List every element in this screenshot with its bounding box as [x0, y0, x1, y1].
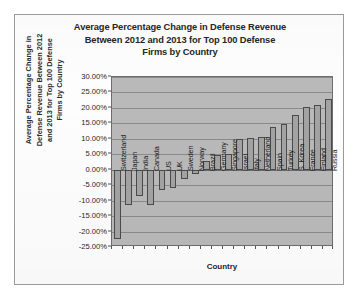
x-tick-mark	[144, 246, 145, 249]
x-tick-mark	[178, 246, 179, 249]
y-axis-title-line-2: Defense Revenue Between 2012	[35, 34, 45, 147]
x-category-label: Israel	[241, 154, 250, 171]
bar	[136, 170, 143, 196]
y-tick-label: 25.00%	[81, 87, 107, 96]
x-category-label: Canada	[152, 146, 161, 171]
bar	[181, 170, 188, 179]
y-tick-label: 15.00%	[81, 118, 107, 127]
x-category-label: India	[141, 156, 150, 171]
y-tick-label: 20.00%	[81, 102, 107, 111]
x-category-label: Brazil	[208, 153, 217, 170]
chart-title-line-3: Firms by Country	[33, 46, 327, 59]
y-tick-mark	[108, 215, 111, 216]
bar	[125, 170, 132, 206]
y-tick-label: -20.00%	[79, 226, 107, 235]
gridline-10	[112, 139, 332, 140]
x-tick-mark	[111, 246, 112, 249]
y-tick-label: 30.00%	[81, 72, 107, 81]
y-axis-title-line-3: and 2013 for Top 100 Defense	[45, 34, 55, 147]
bar	[159, 170, 166, 190]
plot-wrap: 30.00%25.00%20.00%15.00%10.00%5.00%0.00%…	[111, 76, 333, 246]
bar	[114, 170, 121, 240]
x-tick-mark	[200, 246, 201, 249]
y-tick-mark	[108, 76, 111, 77]
x-category-label: Spain	[275, 153, 284, 171]
chart-title-line-1: Average Percentage Change in Defense Rev…	[33, 21, 327, 34]
x-category-label: Japan	[130, 152, 139, 171]
x-tick-mark	[133, 246, 134, 249]
x-tick-mark	[233, 246, 234, 249]
bar	[147, 170, 154, 206]
x-tick-mark	[155, 246, 156, 249]
x-tick-mark	[322, 246, 323, 249]
chart-frame: Average Percentage Change in Defense Rev…	[14, 14, 344, 285]
gridline-30	[112, 77, 332, 78]
bar	[170, 170, 177, 189]
x-tick-mark	[122, 246, 123, 249]
x-category-label: Finland	[319, 148, 328, 171]
x-tick-mark	[300, 246, 301, 249]
x-tick-mark	[266, 246, 267, 249]
y-tick-mark	[108, 106, 111, 107]
x-tick-mark	[289, 246, 290, 249]
y-tick-label: 0.00%	[85, 164, 107, 173]
y-tick-mark	[108, 230, 111, 231]
x-tick-mark	[332, 246, 333, 249]
x-tick-mark	[189, 246, 190, 249]
y-tick-label: -15.00%	[79, 211, 107, 220]
x-category-label: France	[308, 149, 317, 171]
x-category-label: S. Korea	[297, 144, 306, 171]
y-axis-title-line-4: Firms by Country	[55, 34, 65, 147]
gridline-20	[112, 108, 332, 109]
x-category-label: Sweden	[186, 145, 195, 170]
x-category-label: Italy	[252, 158, 261, 171]
y-tick-label: -5.00%	[83, 180, 107, 189]
gridline-15	[112, 123, 332, 124]
gridline-neg10	[112, 201, 332, 202]
y-tick-mark	[108, 199, 111, 200]
x-tick-mark	[311, 246, 312, 249]
x-category-label: Switzerland	[119, 135, 128, 171]
y-tick-mark	[108, 122, 111, 123]
x-axis-title: Country	[111, 262, 333, 271]
y-tick-label: -25.00%	[79, 242, 107, 251]
y-tick-label: 10.00%	[81, 133, 107, 142]
x-category-label: UK	[175, 161, 184, 171]
x-tick-mark	[167, 246, 168, 249]
y-axis-title: Average Percentage Change in Defense Rev…	[22, 0, 68, 180]
x-tick-mark	[222, 246, 223, 249]
y-tick-mark	[108, 91, 111, 92]
chart-title: Average Percentage Change in Defense Rev…	[33, 21, 327, 59]
chart-title-line-2: Between 2012 and 2013 for Top 100 Defens…	[33, 34, 327, 47]
y-tick-label: 5.00%	[85, 149, 107, 158]
x-tick-mark	[211, 246, 212, 249]
x-category-label: Russia	[330, 149, 339, 170]
gridline-neg20	[112, 232, 332, 233]
gridline-neg15	[112, 216, 332, 217]
y-tick-mark	[108, 168, 111, 169]
y-tick-mark	[108, 153, 111, 154]
x-category-label: Turkey	[286, 150, 295, 171]
gridline-neg5	[112, 185, 332, 186]
x-category-label: Germany	[219, 142, 228, 171]
y-axis-title-line-1: Average Percentage Change in	[24, 34, 34, 147]
y-tick-label: -10.00%	[79, 195, 107, 204]
gridline-25	[112, 92, 332, 93]
x-category-label: US	[164, 161, 173, 171]
y-tick-mark	[108, 137, 111, 138]
x-tick-mark	[244, 246, 245, 249]
x-category-label: Singapore	[230, 139, 239, 171]
x-tick-mark	[255, 246, 256, 249]
y-tick-mark	[108, 184, 111, 185]
x-category-label: Netherland	[263, 137, 272, 171]
x-category-label: Norway	[197, 147, 206, 171]
x-tick-mark	[278, 246, 279, 249]
